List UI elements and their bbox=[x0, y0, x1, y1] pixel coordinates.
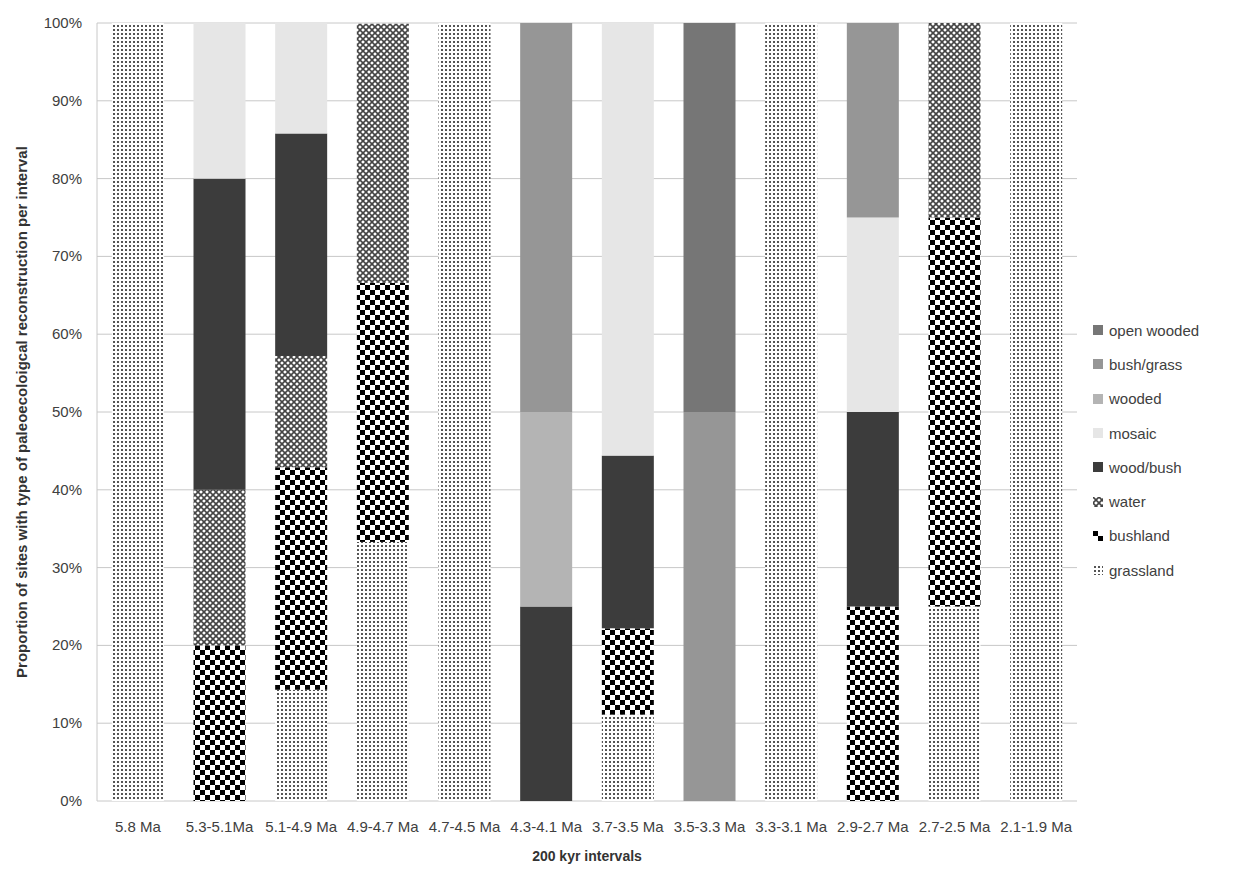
bar-segment-mosaic bbox=[194, 23, 246, 179]
bar-segment-grassland bbox=[439, 23, 491, 801]
legend-swatch-icon bbox=[1093, 428, 1103, 438]
legend-swatch-icon bbox=[1093, 394, 1103, 404]
y-tick-label: 0% bbox=[30, 792, 82, 809]
bar-segment-water bbox=[357, 24, 409, 283]
x-tick-label: 5.1-4.9 Ma bbox=[260, 818, 342, 835]
legend-label: mosaic bbox=[1109, 425, 1157, 442]
legend-label: wood/bush bbox=[1109, 459, 1182, 476]
legend-item: water bbox=[1093, 484, 1199, 518]
legend-item: grassland bbox=[1093, 553, 1199, 587]
bar-stack bbox=[439, 23, 491, 801]
x-tick-label: 2.9-2.7 Ma bbox=[832, 818, 914, 835]
bar-segment-water bbox=[194, 490, 246, 646]
x-tick-label: 3.7-3.5 Ma bbox=[587, 818, 669, 835]
bar-segment-mosaic bbox=[847, 218, 899, 413]
y-tick-label: 80% bbox=[30, 170, 82, 187]
bar-segment-grassland bbox=[1010, 23, 1062, 801]
x-tick-label: 5.3-5.1Ma bbox=[179, 818, 261, 835]
legend-label: wooded bbox=[1109, 390, 1162, 407]
bar-segment-wood-bush bbox=[847, 412, 899, 607]
legend-label: water bbox=[1109, 493, 1146, 510]
legend-label: bush/grass bbox=[1109, 356, 1182, 373]
x-tick-label: 2.7-2.5 Ma bbox=[914, 818, 996, 835]
legend-swatch-icon bbox=[1093, 531, 1103, 541]
bar-segment-grassland bbox=[602, 715, 654, 801]
bar-segment-bushland bbox=[194, 645, 246, 801]
bar-segment-grassland bbox=[357, 542, 409, 801]
x-tick-label: 3.5-3.3 Ma bbox=[669, 818, 751, 835]
bar-segment-grassland bbox=[275, 690, 327, 801]
bar-stack bbox=[520, 23, 572, 801]
bar-segment-mosaic bbox=[275, 22, 327, 133]
x-tick-label: 3.3-3.1 Ma bbox=[750, 818, 832, 835]
bar-segment-wood-bush bbox=[275, 133, 327, 356]
x-tick-label: 4.7-4.5 Ma bbox=[424, 818, 506, 835]
bar-stack bbox=[765, 23, 817, 801]
x-tick-label: 4.3-4.1 Ma bbox=[505, 818, 587, 835]
bar-segment-bush-grass bbox=[684, 412, 736, 801]
legend-swatch-icon bbox=[1093, 359, 1103, 369]
y-tick-label: 90% bbox=[30, 92, 82, 109]
bar-segment-grassland bbox=[929, 607, 981, 802]
y-tick-label: 50% bbox=[30, 403, 82, 420]
y-axis-title: Proportion of sites with type of paleoec… bbox=[13, 146, 30, 678]
bar-segment-water bbox=[929, 23, 981, 218]
bar-segment-open-wooded bbox=[684, 23, 736, 412]
legend-item: wooded bbox=[1093, 382, 1199, 416]
legend-item: open wooded bbox=[1093, 313, 1199, 347]
legend-swatch-icon bbox=[1093, 565, 1103, 575]
y-tick-label: 10% bbox=[30, 714, 82, 731]
bar-segment-bush-grass bbox=[847, 23, 899, 218]
bar-segment-bushland bbox=[357, 283, 409, 542]
legend-label: bushland bbox=[1109, 527, 1170, 544]
y-tick-label: 40% bbox=[30, 481, 82, 498]
legend-label: grassland bbox=[1109, 562, 1174, 579]
bar-segment-grassland bbox=[112, 23, 164, 801]
x-tick-label: 4.9-4.7 Ma bbox=[342, 818, 424, 835]
bar-stack bbox=[357, 24, 409, 801]
bar-stack bbox=[684, 23, 736, 801]
bar-segment-bushland bbox=[847, 607, 899, 802]
bar-stack bbox=[847, 23, 899, 801]
bar-stack bbox=[1010, 23, 1062, 801]
bar-segment-wood-bush bbox=[194, 179, 246, 490]
y-tick-label: 20% bbox=[30, 636, 82, 653]
y-tick-label: 60% bbox=[30, 325, 82, 342]
bar-segment-mosaic bbox=[602, 23, 654, 456]
legend-item: wood/bush bbox=[1093, 450, 1199, 484]
bar-stack bbox=[275, 22, 327, 801]
bar-segment-bushland bbox=[275, 467, 327, 690]
legend-swatch-icon bbox=[1093, 497, 1103, 507]
legend-swatch-icon bbox=[1093, 462, 1103, 472]
y-tick-label: 30% bbox=[30, 559, 82, 576]
y-tick-label: 100% bbox=[30, 14, 82, 31]
bar-segment-bush-grass bbox=[520, 23, 572, 412]
bar-stack bbox=[112, 23, 164, 801]
x-axis-title: 200 kyr intervals bbox=[532, 848, 642, 864]
legend-item: mosaic bbox=[1093, 416, 1199, 450]
legend-swatch-icon bbox=[1093, 325, 1103, 335]
y-tick-label: 70% bbox=[30, 247, 82, 264]
bar-segment-water bbox=[275, 356, 327, 467]
x-tick-label: 5.8 Ma bbox=[97, 818, 179, 835]
legend-item: bush/grass bbox=[1093, 347, 1199, 381]
bar-segment-wood-bush bbox=[520, 607, 572, 802]
bar-segment-grassland bbox=[765, 23, 817, 801]
bar-segment-wood-bush bbox=[602, 456, 654, 629]
x-tick-label: 2.1-1.9 Ma bbox=[995, 818, 1077, 835]
bar-stack bbox=[602, 23, 654, 801]
bar-segment-wooded bbox=[520, 412, 572, 607]
bar-stack bbox=[194, 23, 246, 801]
stacked-bar-chart bbox=[0, 0, 1238, 872]
bar-segment-bushland bbox=[602, 628, 654, 714]
bar-segment-bushland bbox=[929, 218, 981, 607]
legend-item: bushland bbox=[1093, 519, 1199, 553]
legend: open woodedbush/grasswoodedmosaicwood/bu… bbox=[1093, 313, 1199, 587]
bar-stack bbox=[929, 23, 981, 801]
legend-label: open wooded bbox=[1109, 322, 1199, 339]
